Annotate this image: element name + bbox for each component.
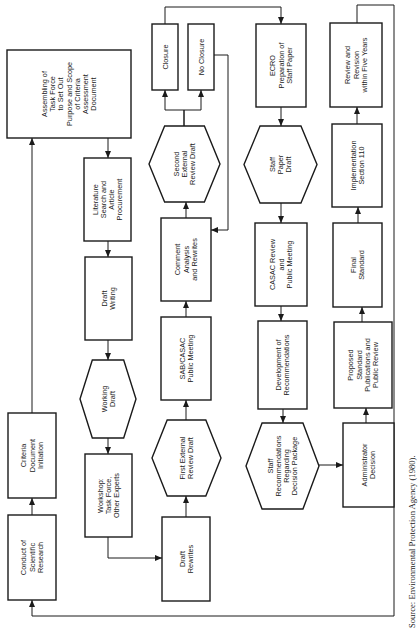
edge-conduct-research-to-criteria-initiation [29,498,35,515]
flowchart-stage: Conduct ofScientificResearchCriteriaDocu… [0,0,419,631]
node-label: DraftWriting [100,287,117,310]
edge-criteria-initiation-to-assembling-task-force [29,138,35,413]
edge-workshop-to-draft-rewrites [108,537,162,561]
edge-literature-search-to-draft-writing [105,241,111,257]
node-label-line: Closure [161,44,170,69]
arrowhead-icon [359,307,365,314]
node-label-line: Public Meeting [285,241,294,289]
node-label-line: within Five Years [360,37,369,93]
node-label-line: and Rewrites [190,238,199,281]
node-label-line: Rewrites [186,544,195,573]
node-conduct-research: Conduct ofScientificResearch [8,515,56,600]
node-closure: Closure [152,24,178,90]
edge-line [184,90,201,126]
node-label: Development ofRecommendations [274,334,291,395]
node-label-line: Research [36,542,45,573]
arrowhead-icon [155,555,162,561]
criteria-document-flowchart: Conduct ofScientificResearchCriteriaDocu… [0,0,419,631]
node-working-draft: WorkingDraft [80,360,136,438]
node-label: Closure [161,44,170,69]
edge-staff-recommendations-to-administrator-decision [319,462,343,468]
edge-staff-paper-draft-to-casac-review [278,203,284,223]
node-label-line: Decision [368,451,377,479]
arrowhead-icon [198,90,204,97]
arrowhead-icon [105,447,111,454]
arrowhead-icon [105,353,111,360]
node-label-line: Recommendations [282,334,291,395]
node-draft-writing: DraftWriting [85,257,132,340]
edge-comment-analysis-to-second-external-review [183,202,189,218]
edge-line [165,7,281,24]
node-label-line: Review Draft [186,437,195,479]
edge-casac-review-to-development-recommendations [278,306,284,321]
edge-first-external-review-to-sab-casac-meeting [183,400,189,420]
arrowhead-icon [363,408,369,415]
node-label-line: Section 110 [357,147,366,185]
arrowhead-icon [183,496,189,503]
node-label-line: Draft [284,157,293,173]
node-ecro-staff-paper: ECROPreparation ofStaff Paper [256,24,306,107]
arrowhead-icon [278,119,284,126]
edge-closure-to-ecro-staff-paper [165,7,284,24]
node-implementation: ImplementationSection 110 [332,124,382,207]
edge-second-external-review-to-closure [162,90,184,126]
node-label-line: Draft [108,391,117,407]
node-review-revision: Review andRevisionwithin Five Years [330,23,382,107]
node-label-line: Standard [357,250,366,280]
node-label: SAB/CASACPublic Meeting [178,335,195,383]
node-label-line: Public Meeting [186,335,195,383]
arrowhead-icon [105,151,111,158]
node-label-line: Other Experts [112,473,121,518]
arrowhead-icon [105,250,111,257]
node-literature-search: LiteratureSearch andArticleProcurement [84,158,131,241]
node-final-standard: FinalStandard [333,223,382,307]
source-note: Source: Environmental Protection Agency … [407,455,417,628]
edge-line [165,90,184,126]
edge-second-external-review-to-no-closure [184,90,204,126]
arrowhead-icon [183,301,189,308]
node-staff-recommendations: StaffRecommendationsRegardingDecision Pa… [246,423,319,509]
arrowhead-icon [336,462,343,468]
arrowhead-icon [162,90,168,97]
node-administrator-decision: AdministratorDecision [343,423,394,507]
node-label-line: Decision Package [290,437,299,495]
node-staff-paper-draft: StaffPaperDraft [244,126,317,203]
node-label: CriteriaDocumentInitiation [19,439,44,472]
arrowhead-icon [280,416,286,423]
node-casac-review: CASAC ReviewandPublic Meeting [255,223,307,306]
edge-draft-writing-to-working-draft [105,340,111,360]
arrowhead-icon [183,400,189,407]
edge-development-recommendations-to-staff-recommendations [280,409,286,423]
node-draft-rewrites: DraftRewrites [162,517,210,601]
arrowhead-icon [183,202,189,209]
edge-working-draft-to-workshop [105,438,111,454]
arrowhead-icon [278,216,284,223]
edge-proposed-standard-to-final-standard [359,307,365,322]
node-workshop: Workshop:Task Force,Other Experts [85,454,132,537]
arrowhead-icon [211,227,218,233]
node-label-line: Writing [108,287,117,310]
node-development-recommendations: Development ofRecommendations [258,321,307,409]
node-label-line: No Closure [197,39,206,76]
node-label: LiteratureSearch andArticleProcurement [91,179,125,221]
arrowhead-icon [278,314,284,321]
node-label: No Closure [197,39,206,76]
edge-ecro-staff-paper-to-staff-paper-draft [278,107,284,126]
arrowhead-icon [354,107,360,114]
node-label: StaffPaperDraft [268,154,293,174]
node-label: Conduct ofScientificResearch [19,539,44,575]
node-criteria-initiation: CriteriaDocumentInitiation [8,413,56,498]
node-sab-casac-meeting: SAB/CASACPublic Meeting [161,317,211,400]
arrowhead-icon [278,17,284,24]
arrowhead-icon [29,498,35,505]
edge-assembling-task-force-to-literature-search [105,138,111,158]
edge-administrator-decision-to-proposed-standard [363,408,369,423]
node-label-line: Review Draft [188,143,197,185]
arrowhead-icon [29,600,35,607]
node-proposed-standard: ProposedStandardPublications andPublic R… [334,322,392,408]
node-label: Workshop:Task Force,Other Experts [96,473,121,518]
node-label-line: Initiation [36,442,45,469]
edge-line [108,537,162,558]
node-label-line: Public Review [371,341,380,388]
node-label-line: Staff Paper [285,47,294,84]
